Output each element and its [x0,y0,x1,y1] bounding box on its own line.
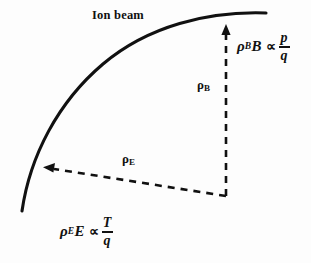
formula-e-fraction: T q [102,216,113,248]
rho-b-label: ρB [197,78,210,93]
rho-e-arrowhead [43,163,55,173]
rho-e-dashed-line [54,169,226,196]
formula-b-denominator: q [280,48,289,63]
ion-beam-label: Ion beam [92,9,144,22]
formula-e-proportional-icon: ∝ [89,225,99,239]
electric-rigidity-formula: ρEE ∝ T q [60,216,113,248]
rho-e-label: ρE [122,152,135,167]
rho-e-symbol: ρ [122,151,129,166]
rho-b-subscript: B [204,83,210,93]
formula-e-field: E [75,224,85,239]
formula-b-fraction: p q [279,31,290,63]
formula-b-rho: ρ [237,39,245,54]
formula-b-rho-subscript: B [245,42,251,52]
magnetic-rigidity-formula: ρBB ∝ p q [237,31,290,63]
formula-e-numerator: T [102,216,113,231]
rho-b-arrowhead [221,24,230,35]
rho-b-symbol: ρ [197,77,204,92]
rho-e-subscript: E [129,157,135,167]
formula-b-proportional-icon: ∝ [266,40,276,54]
formula-e-rho-subscript: E [68,227,74,237]
formula-e-rho: ρ [60,224,68,239]
formula-b-field: B [252,39,262,54]
formula-e-denominator: q [103,233,112,248]
ion-beam-curve [22,13,266,211]
formula-b-numerator: p [280,31,289,46]
ion-beam-diagram: Ion beam ρB ρE ρBB ∝ p q ρEE ∝ T q [0,0,311,263]
